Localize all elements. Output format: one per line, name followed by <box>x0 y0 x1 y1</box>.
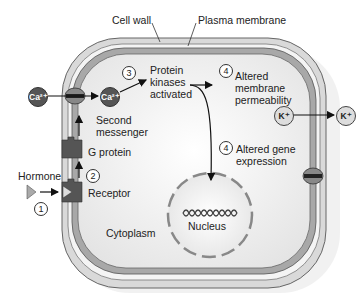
step-3-marker: 3 <box>122 66 136 80</box>
calcium-ion-inside: Ca²⁺ <box>100 87 120 107</box>
second-messenger-label-1: Second <box>96 114 132 126</box>
second-messenger-label-2: messenger <box>96 126 148 138</box>
protein-kinases-label-3: activated <box>150 88 192 100</box>
altered-membrane-label-1: Altered <box>235 70 268 82</box>
nucleus <box>168 173 252 257</box>
potassium-ion-inside: K⁺ <box>274 106 294 126</box>
step-4-gene-marker: 4 <box>219 141 233 155</box>
cell-diagram <box>0 0 360 303</box>
plasma-membrane-label: Plasma membrane <box>198 14 286 26</box>
altered-membrane-label-3: permeability <box>235 94 292 106</box>
protein-kinases-label-1: Protein <box>150 64 183 76</box>
calcium-ion-outside: Ca²⁺ <box>28 87 48 107</box>
step-2-marker: 2 <box>86 169 100 183</box>
altered-gene-label-2: expression <box>236 155 287 167</box>
receptor-label: Receptor <box>88 187 131 199</box>
cytoplasm-label: Cytoplasm <box>106 227 156 239</box>
protein-kinases-label-2: kinases <box>150 76 186 88</box>
g-protein-icon <box>62 137 82 158</box>
step-4-membrane-marker: 4 <box>219 64 233 78</box>
potassium-ion-outside: K⁺ <box>336 106 356 126</box>
altered-gene-label-1: Altered gene <box>236 143 296 155</box>
nucleus-label: Nucleus <box>188 220 226 232</box>
step-1-marker: 1 <box>34 202 48 216</box>
g-protein-label: G protein <box>88 146 131 158</box>
hormone-label: Hormone <box>18 170 61 182</box>
cell-wall-label: Cell wall <box>112 14 151 26</box>
hormone-icon <box>27 185 36 199</box>
altered-membrane-label-2: membrane <box>235 82 285 94</box>
